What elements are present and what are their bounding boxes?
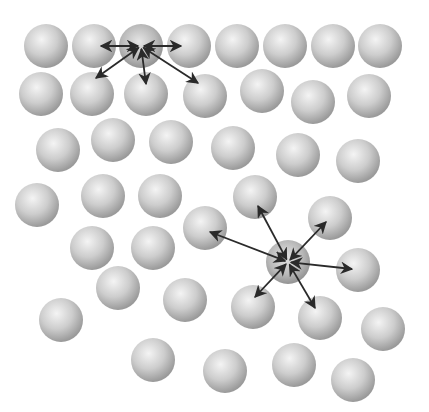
particle-sphere bbox=[272, 343, 316, 387]
particle-sphere bbox=[96, 266, 140, 310]
particle-sphere bbox=[70, 226, 114, 270]
particle-sphere bbox=[138, 174, 182, 218]
particle-sphere bbox=[163, 278, 207, 322]
particle-sphere bbox=[358, 24, 402, 68]
particle-sphere bbox=[131, 226, 175, 270]
particle-sphere bbox=[347, 74, 391, 118]
particles-group bbox=[15, 24, 405, 402]
particle-sphere bbox=[131, 338, 175, 382]
particle-force-diagram bbox=[0, 0, 429, 412]
particle-sphere bbox=[331, 358, 375, 402]
particle-sphere bbox=[291, 80, 335, 124]
particle-sphere bbox=[36, 128, 80, 172]
particle-sphere bbox=[215, 24, 259, 68]
particle-sphere bbox=[183, 206, 227, 250]
particle-sphere bbox=[311, 24, 355, 68]
particle-sphere bbox=[231, 285, 275, 329]
particle-sphere bbox=[15, 183, 59, 227]
particle-sphere bbox=[298, 296, 342, 340]
particle-sphere bbox=[211, 126, 255, 170]
diagram-canvas bbox=[0, 0, 429, 412]
particle-sphere bbox=[203, 349, 247, 393]
particle-sphere bbox=[233, 175, 277, 219]
particle-sphere bbox=[91, 118, 135, 162]
particle-sphere bbox=[70, 72, 114, 116]
particle-sphere bbox=[240, 69, 284, 113]
particle-sphere bbox=[19, 72, 63, 116]
particle-sphere bbox=[263, 24, 307, 68]
particle-sphere bbox=[361, 307, 405, 351]
particle-sphere bbox=[276, 133, 320, 177]
particle-sphere bbox=[24, 24, 68, 68]
particle-sphere bbox=[149, 120, 193, 164]
particle-sphere bbox=[336, 139, 380, 183]
particle-sphere bbox=[81, 174, 125, 218]
particle-sphere bbox=[336, 248, 380, 292]
particle-sphere bbox=[183, 74, 227, 118]
particle-sphere bbox=[39, 298, 83, 342]
